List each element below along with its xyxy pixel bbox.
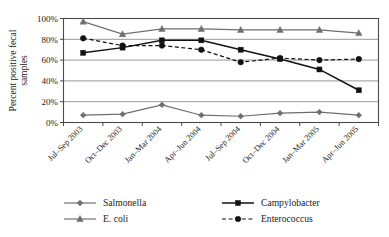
legend-label: Enterococcus — [261, 213, 313, 224]
legend-label: Campylobacter — [261, 197, 320, 208]
data-point-2 — [159, 43, 165, 49]
data-point-1 — [120, 43, 126, 49]
data-point-3 — [199, 47, 205, 53]
y-tick-label-20%: 20% — [42, 97, 59, 107]
y-tick-label-60%: 60% — [42, 55, 59, 65]
y-tick-label-0%: 0% — [46, 118, 59, 128]
data-point-6 — [317, 67, 322, 72]
data-point-3 — [199, 38, 204, 43]
y-axis-label-line-1: Percent positive fecal — [8, 29, 18, 111]
data-point-6 — [317, 57, 323, 63]
y-tick-label-40%: 40% — [42, 76, 59, 86]
data-point-7 — [356, 56, 362, 62]
y-tick-label-80%: 80% — [42, 35, 59, 45]
chart-background — [0, 0, 389, 237]
data-point-5 — [277, 55, 283, 61]
data-point-4 — [238, 47, 243, 52]
legend-label: E. coli — [103, 213, 128, 224]
y-tick-label-100%: 100% — [37, 14, 59, 24]
chart-container: 0%20%40%60%80%100% Jul–Sep 2003Oct–Dec 2… — [0, 0, 389, 237]
legend-marker — [235, 216, 241, 222]
legend-marker — [236, 201, 241, 206]
y-axis-label-line-2: samples — [19, 55, 29, 86]
legend-label: Salmonella — [103, 197, 147, 208]
data-point-7 — [356, 88, 361, 93]
data-point-4 — [238, 59, 244, 65]
data-point-0 — [81, 50, 86, 55]
percent-positive-fecal-samples-line-chart: 0%20%40%60%80%100% Jul–Sep 2003Oct–Dec 2… — [0, 0, 389, 237]
data-point-2 — [159, 38, 164, 43]
data-point-0 — [80, 35, 86, 41]
